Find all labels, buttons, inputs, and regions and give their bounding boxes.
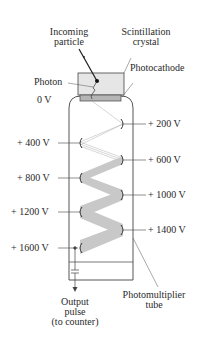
incoming-particle-label: Incoming particle bbox=[44, 27, 94, 47]
dynode-voltage-label: + 800 V bbox=[17, 173, 50, 183]
electron-beams bbox=[80, 101, 123, 162]
photocathode-label: Photocathode bbox=[130, 63, 184, 73]
electron-beams-dense bbox=[80, 156, 123, 254]
dynode-voltage-label: + 1000 V bbox=[148, 190, 186, 200]
output-capacitor bbox=[71, 247, 79, 289]
output-pulse-label: Output pulse (to counter) bbox=[45, 297, 105, 327]
dynode-voltage-label: + 1400 V bbox=[148, 225, 186, 235]
zero-volt-label: 0 V bbox=[37, 95, 52, 105]
dynode-voltage-label: + 600 V bbox=[148, 155, 181, 165]
tube-leader bbox=[133, 238, 158, 287]
dynode-voltage-label: + 1200 V bbox=[11, 207, 49, 217]
scintillation-crystal-label: Scintillation crystal bbox=[114, 27, 178, 47]
dynode-voltage-label: + 200 V bbox=[148, 119, 181, 129]
particle-interaction-point bbox=[95, 79, 99, 83]
scintillation-crystal bbox=[78, 73, 124, 95]
photomultiplier-tube-label: Photomultiplier tube bbox=[112, 290, 196, 310]
dynode-voltage-label: + 1600 V bbox=[11, 243, 49, 253]
photocathode bbox=[80, 95, 121, 101]
particle-marker bbox=[83, 56, 85, 58]
photon-label: Photon bbox=[34, 77, 62, 87]
output-arrow-icon bbox=[73, 287, 78, 292]
dynode-voltage-label: + 400 V bbox=[17, 138, 50, 148]
